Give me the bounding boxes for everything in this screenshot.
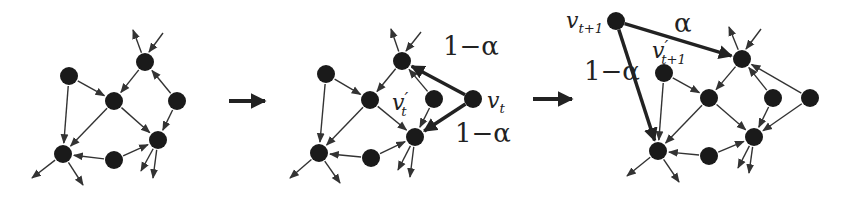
edge-arrow bbox=[718, 141, 744, 152]
network-node bbox=[745, 128, 763, 146]
edge-arrow bbox=[752, 64, 802, 93]
edge-arrow bbox=[152, 71, 171, 94]
edge-arrow bbox=[64, 86, 68, 143]
new-node bbox=[464, 90, 482, 108]
edge-arrow bbox=[71, 108, 107, 146]
edge-arrow bbox=[716, 67, 735, 90]
edge-arrow bbox=[759, 107, 769, 127]
edge-arrow bbox=[320, 84, 325, 142]
network-node bbox=[168, 92, 186, 110]
edge-arrow bbox=[673, 78, 700, 93]
network-node bbox=[105, 92, 123, 110]
network-growth-diagram: 1−α1−αv′tvtα1−αvt+1v′t+1 bbox=[0, 0, 842, 202]
edge-arrow bbox=[377, 69, 396, 92]
edge-stub-arrow bbox=[398, 146, 410, 170]
network-node bbox=[362, 149, 380, 167]
edge-arrow bbox=[717, 105, 746, 130]
network-node bbox=[801, 89, 819, 107]
edge-stub-arrow bbox=[664, 159, 679, 182]
label-text: α bbox=[674, 8, 692, 38]
network-node bbox=[700, 89, 718, 107]
edge-arrow bbox=[666, 105, 702, 143]
new-node bbox=[607, 12, 625, 30]
edge-stub-arrow bbox=[149, 33, 163, 52]
edge-arrow bbox=[78, 81, 105, 96]
network-node bbox=[393, 52, 411, 70]
edge-arrow bbox=[74, 155, 104, 159]
edge-arrow bbox=[335, 79, 361, 94]
edge-arrow bbox=[330, 154, 361, 157]
edge-arrow bbox=[659, 83, 663, 140]
edge-stub-arrow bbox=[406, 32, 421, 51]
network-node bbox=[60, 67, 78, 85]
edge-stub-arrow bbox=[749, 147, 753, 173]
network-node bbox=[700, 147, 718, 165]
edge-arrow bbox=[121, 108, 149, 133]
network-node bbox=[149, 131, 167, 149]
network-node bbox=[361, 91, 379, 109]
diagram-svg: 1−α1−αv′tvtα1−αvt+1v′t+1 bbox=[0, 0, 842, 202]
attachment-edge-arrow bbox=[412, 66, 465, 95]
edge-arrow bbox=[420, 108, 430, 127]
label-text: 1−α bbox=[455, 118, 511, 148]
label-text: v′t bbox=[392, 89, 408, 119]
network-node bbox=[317, 65, 335, 83]
edge-stub-arrow bbox=[141, 149, 153, 171]
edge-stub-arrow bbox=[290, 160, 311, 178]
network-node bbox=[649, 142, 667, 160]
edge-stub-arrow bbox=[32, 160, 55, 178]
edge-stub-arrow bbox=[133, 30, 141, 53]
network-node bbox=[425, 90, 443, 108]
label-text: 1−α bbox=[443, 31, 499, 61]
edge-arrow bbox=[380, 142, 405, 154]
edge-stub-arrow bbox=[738, 146, 749, 168]
edge-arrow bbox=[163, 110, 173, 130]
edge-stub-arrow bbox=[391, 29, 399, 52]
edges-layer bbox=[32, 24, 802, 185]
edge-arrow bbox=[121, 70, 139, 93]
network-node bbox=[406, 128, 424, 146]
edge-stub-arrow bbox=[729, 27, 738, 50]
network-node bbox=[310, 144, 328, 162]
network-node bbox=[54, 145, 72, 163]
edge-arrow bbox=[327, 107, 363, 145]
edge-stub-arrow bbox=[325, 161, 340, 183]
edge-stub-arrow bbox=[153, 150, 157, 178]
edge-stub-arrow bbox=[627, 157, 650, 176]
label-text: vt bbox=[487, 88, 505, 116]
edge-arrow bbox=[669, 152, 699, 155]
label-text: vt+1 bbox=[566, 8, 603, 36]
edge-stub-arrow bbox=[410, 147, 414, 177]
network-node bbox=[136, 53, 154, 71]
network-node bbox=[733, 50, 751, 68]
network-node bbox=[105, 151, 123, 169]
edge-stub-arrow bbox=[68, 162, 83, 185]
edge-arrow bbox=[123, 145, 148, 156]
edge-stub-arrow bbox=[746, 29, 761, 49]
network-node bbox=[764, 89, 782, 107]
label-text: 1−α bbox=[584, 56, 640, 86]
